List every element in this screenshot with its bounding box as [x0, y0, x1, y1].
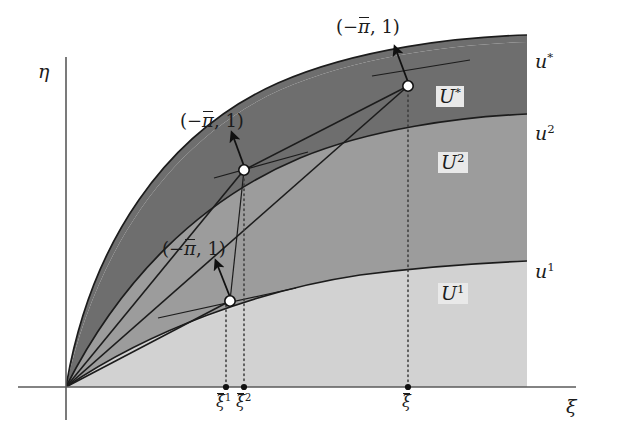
region-label-U-star: U*: [436, 86, 464, 107]
curve-label-u-star: u*: [535, 52, 553, 71]
curve-label-u-2-base: u: [535, 122, 547, 144]
curve-label-u-1-base: u: [535, 260, 547, 282]
tick-label-xi-bar-2-base: ξ: [236, 394, 245, 410]
annotation-label-bottom: (−π, 1): [162, 240, 226, 258]
node-middle: [239, 165, 249, 175]
annotation-label-middle: (−π, 1): [180, 112, 244, 130]
diagram-canvas: [0, 0, 626, 435]
curve-label-u-star-sup: *: [547, 50, 553, 64]
annotation-bottom-prefix: (−: [162, 238, 184, 259]
region-label-U-2-base: U: [441, 151, 457, 173]
annotation-middle-suffix: , 1): [214, 110, 244, 131]
tick-label-xi-bar-base: ξ: [402, 394, 411, 410]
region-label-U-2-sup: 2: [457, 151, 465, 165]
region-label-U-1: U1: [438, 283, 468, 304]
tick-label-xi-bar: ξ: [402, 394, 411, 410]
tick-label-xi-bar-1: ξ1: [216, 394, 231, 410]
curve-label-u-1-sup: 1: [547, 260, 555, 274]
node-top: [403, 81, 413, 91]
annotation-top-prefix: (−: [336, 16, 358, 37]
tick-dot-xi-bar: [405, 384, 411, 390]
region-label-U-star-sup: *: [455, 85, 461, 99]
phase-plane-figure: η ξ u* u2 u1 U* U2 U1 ξ1 ξ2 ξ (−π, 1) (−…: [0, 0, 626, 435]
annotation-bottom-bar-symbol: π: [184, 240, 196, 258]
annotation-middle-bar-symbol: π: [202, 112, 214, 130]
annotation-bottom-suffix: , 1): [196, 238, 226, 259]
y-axis-label: η: [38, 62, 49, 81]
annotation-middle-prefix: (−: [180, 110, 202, 131]
tick-label-xi-bar-2-sup: 2: [245, 391, 252, 403]
curve-label-u-1: u1: [535, 262, 555, 281]
curve-label-u-2-sup: 2: [547, 122, 555, 136]
tick-label-xi-bar-1-base: ξ: [216, 394, 225, 410]
tick-dot-xi-bar-1: [223, 384, 229, 390]
region-label-U-1-base: U: [441, 282, 457, 304]
annotation-label-top: (−π, 1): [336, 18, 400, 36]
tick-label-xi-bar-2: ξ2: [236, 394, 251, 410]
x-axis-label: ξ: [566, 397, 576, 416]
annotation-top-bar-symbol: π: [358, 18, 370, 36]
region-label-U-star-base: U: [439, 85, 455, 107]
region-label-U-1-sup: 1: [457, 282, 465, 296]
region-label-U-2: U2: [438, 152, 468, 173]
annotation-top-suffix: , 1): [370, 16, 400, 37]
tick-label-xi-bar-1-sup: 1: [225, 391, 232, 403]
node-bottom: [225, 296, 235, 306]
tick-dot-xi-bar-2: [241, 384, 247, 390]
curve-label-u-2: u2: [535, 124, 555, 143]
curve-label-u-star-base: u: [535, 50, 547, 72]
